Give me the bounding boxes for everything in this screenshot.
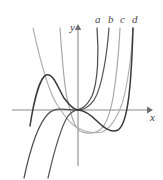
power-function-graph xyxy=(0,0,163,180)
curve-b-even xyxy=(60,28,120,133)
x-axis-label: x xyxy=(150,112,155,123)
y-axis-arrow xyxy=(75,24,81,30)
y-axis-label: y xyxy=(70,22,75,33)
curve-label-c: c xyxy=(120,14,125,25)
curve-label-b: b xyxy=(108,14,114,25)
figure-container: y x a b c d xyxy=(0,0,163,180)
curve-label-d: d xyxy=(132,14,138,25)
y-axis xyxy=(75,24,81,166)
curve-label-a: a xyxy=(95,14,101,25)
curve-c xyxy=(33,28,133,133)
